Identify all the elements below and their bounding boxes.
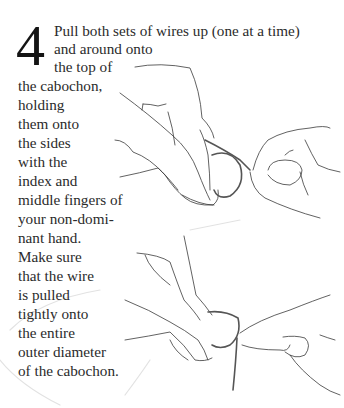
instruction-line: the cabochon, <box>18 77 102 96</box>
instruction-line: index and <box>18 172 77 191</box>
instruction-line: the top of <box>54 58 112 77</box>
instruction-line: your non-domi- <box>18 210 114 229</box>
instruction-line: of the cabochon. <box>18 362 119 381</box>
instruction-line: and around onto <box>54 40 153 59</box>
instruction-line: holding <box>18 96 64 115</box>
instruction-line: Pull both sets of wires up (one at a tim… <box>54 22 300 41</box>
instruction-line: tightly onto <box>18 305 88 324</box>
instruction-line: outer diameter <box>18 343 106 362</box>
step-number: 4 <box>16 22 45 70</box>
instruction-line: with the <box>18 153 67 172</box>
instruction-line: middle fingers of <box>18 191 123 210</box>
top-illustration <box>115 65 340 218</box>
instruction-line: the sides <box>18 134 71 153</box>
instruction-line: them onto <box>18 115 79 134</box>
instruction-line: the entire <box>18 324 75 343</box>
bottom-illustration <box>125 236 340 395</box>
instruction-line: that the wire <box>18 267 94 286</box>
instruction-line: nant hand. <box>18 229 81 248</box>
instruction-line: Make sure <box>18 248 82 267</box>
instruction-page: 4 Pull both sets of wires up (one at a t… <box>0 0 344 408</box>
instruction-line: is pulled <box>18 286 70 305</box>
